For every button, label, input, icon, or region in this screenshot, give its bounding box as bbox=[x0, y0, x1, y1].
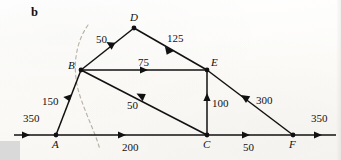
vertex-dot-c bbox=[205, 133, 210, 138]
edge-c-b bbox=[81, 70, 207, 135]
vertex-dot-a bbox=[54, 133, 59, 138]
figure-canvas: b A B C D E F 350 150 50 125 75 50 100 2… bbox=[0, 0, 341, 160]
cut-arc bbox=[75, 25, 100, 150]
network-flow-diagram bbox=[0, 0, 341, 160]
arrowhead-c-to-e bbox=[203, 93, 210, 101]
vertex-dot-e bbox=[205, 68, 210, 73]
arrowhead-c-to-f bbox=[242, 132, 250, 139]
arrowhead-source-to-a bbox=[22, 132, 30, 139]
arrowhead-f-to-sink bbox=[314, 132, 322, 139]
arrowhead-a-to-c bbox=[118, 132, 126, 139]
edge-b-d bbox=[81, 28, 134, 70]
edge-d-e bbox=[134, 28, 207, 70]
edge-f-e bbox=[207, 70, 293, 135]
edge-a-b bbox=[56, 70, 81, 135]
arrowhead-b-to-e bbox=[140, 67, 148, 74]
vertex-dot-d bbox=[132, 26, 137, 31]
vertex-dot-f bbox=[291, 133, 296, 138]
arrowhead-a-to-b bbox=[63, 94, 71, 101]
vertex-dot-b bbox=[79, 68, 84, 73]
